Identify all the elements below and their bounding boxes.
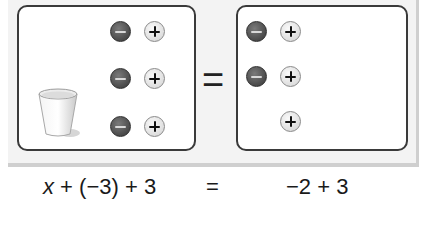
positive-counter	[144, 116, 165, 137]
plus-icon-vertical	[154, 26, 156, 37]
plus-icon-vertical	[154, 121, 156, 132]
minus-icon	[115, 31, 126, 33]
negative-counter	[110, 116, 131, 137]
positive-counter	[144, 21, 165, 42]
equation-variable: x	[43, 174, 54, 199]
cup-icon	[36, 88, 82, 138]
negative-counter	[246, 66, 267, 87]
plus-icon-vertical	[290, 26, 292, 37]
equals-sign: =	[200, 60, 226, 100]
negative-counter	[246, 21, 267, 42]
plus-icon-vertical	[154, 73, 156, 84]
positive-counter	[280, 21, 301, 42]
positive-counter	[280, 66, 301, 87]
minus-icon	[251, 76, 262, 78]
positive-counter	[144, 68, 165, 89]
equation-right-side: −2 + 3	[286, 172, 348, 202]
plus-icon-vertical	[290, 71, 292, 82]
positive-counter	[280, 111, 301, 132]
equation-equals: =	[206, 172, 219, 202]
equation-left-terms: + (−3) + 3	[54, 174, 156, 199]
minus-icon	[115, 126, 126, 128]
equation-left-side: x + (−3) + 3	[43, 172, 156, 202]
plus-icon-vertical	[290, 116, 292, 127]
negative-counter	[110, 68, 131, 89]
negative-counter	[110, 21, 131, 42]
minus-icon	[115, 78, 126, 80]
minus-icon	[251, 31, 262, 33]
